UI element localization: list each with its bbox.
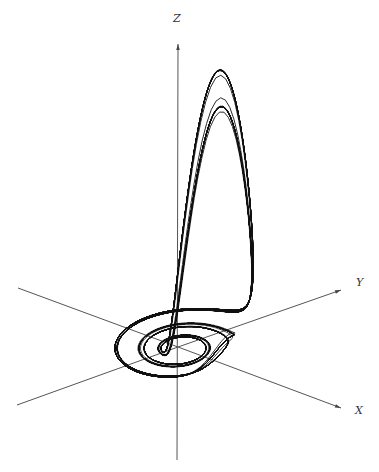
y-axis-line	[18, 288, 178, 347]
y-axis-label: Y	[356, 276, 363, 289]
z-axis-label: Z	[173, 12, 181, 25]
attractor-figure: Z Y X	[0, 0, 379, 472]
y-arrow-icon	[335, 290, 341, 294]
x-axis-label: X	[355, 404, 363, 417]
x-arrow-icon	[335, 404, 341, 408]
x-axis-arrow-line	[178, 347, 341, 408]
z-axis-line	[177, 44, 178, 460]
plot-area	[0, 0, 379, 472]
z-arrow-icon	[176, 44, 180, 50]
